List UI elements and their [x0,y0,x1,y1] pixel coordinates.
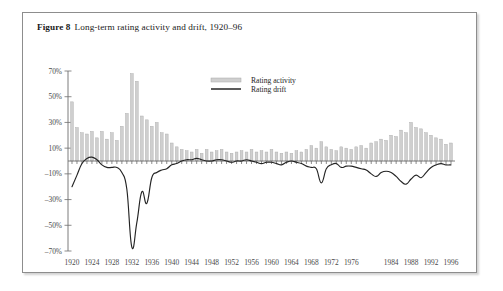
activity-bar [280,153,283,161]
activity-bar [405,133,408,161]
x-tick-label: 1948 [204,258,219,267]
activity-bar [265,152,268,161]
x-tick-label: 1944 [184,258,199,267]
activity-bar [385,140,388,161]
y-tick-label: –30% [44,195,62,204]
x-tick-label: 1956 [244,258,259,267]
activity-bar [295,151,298,161]
activity-bar [270,149,273,161]
x-tick-label: 1988 [404,258,419,267]
activity-bar [205,149,208,161]
activity-bar [325,147,328,161]
activity-bar [330,149,333,161]
activity-bar [400,130,403,161]
activity-bar [110,133,113,161]
y-tick-label: 50% [48,92,62,101]
activity-bar [315,148,318,161]
activity-bar [250,149,253,161]
activity-bar [305,149,308,161]
activity-bar [225,152,228,161]
activity-bar [96,138,99,161]
activity-bar [380,139,383,161]
activity-bar [290,153,293,161]
activity-bar [81,133,84,161]
legend-label-rating-drift: Rating drift [251,85,287,94]
activity-bar [425,133,428,161]
rating-drift-line [72,157,451,249]
x-tick-label: 1992 [424,258,439,267]
x-tick-label: 1924 [85,258,100,267]
x-tick-label: 1964 [284,258,299,267]
activity-bar [230,153,233,161]
x-tick-label: 1972 [324,258,339,267]
activity-bar [71,102,74,161]
activity-bar [340,147,343,161]
activity-bar [415,128,418,161]
activity-bar [140,116,143,161]
activity-bar [160,133,163,161]
x-tick-label: 1932 [124,258,139,267]
activity-bar [175,147,178,161]
activity-bar [235,152,238,161]
activity-bar [150,126,153,161]
activity-bar [130,74,133,161]
activity-bar [365,148,368,161]
y-tick-label: –70% [44,247,62,256]
activity-bar [360,146,363,161]
y-tick-label: –10% [44,169,62,178]
activity-bar [135,81,138,161]
x-tick-label: 1984 [384,258,399,267]
activity-bar [410,122,413,161]
activity-bar [310,146,313,161]
x-tick-label: 1940 [164,258,179,267]
x-tick-label: 1968 [304,258,319,267]
activity-bar [350,149,353,161]
drift-path [72,157,451,249]
activity-bar [210,152,213,161]
x-tick-label: 1960 [264,258,279,267]
activity-bar [420,129,423,161]
activity-bar [275,152,278,161]
activity-bar [430,135,433,161]
activity-bar [375,142,378,161]
y-tick-label: 10% [48,144,62,153]
activity-bar [440,139,443,161]
x-tick-label: 1996 [444,258,459,267]
figure-card: Figure 8Long-term rating activity and dr… [22,12,477,273]
activity-bar [390,135,393,161]
activity-bar [450,143,453,161]
activity-bar [145,120,148,161]
activity-bar [335,151,338,161]
y-tick-label: 30% [48,118,62,127]
activity-bar [101,131,104,161]
activity-bar [260,151,263,161]
y-axis: 70%50%30%10%–10%–30%–50%–70% [44,67,72,256]
legend-swatch-rating-activity [211,78,241,82]
activity-bar [86,134,89,161]
activity-bar [395,137,398,161]
activity-bar [300,152,303,161]
activity-bar [106,139,109,161]
activity-bar [170,143,173,161]
activity-bar [320,142,323,161]
y-tick-label: –50% [44,221,62,230]
activity-bar [355,147,358,161]
activity-bar [155,122,158,161]
x-tick-label: 1976 [344,258,359,267]
rating-activity-drift-chart: Rating activityRating drift 70%50%30%10%… [23,13,478,274]
x-axis-tick-labels: 1920192419281932193619401944194819521956… [65,258,459,267]
chart-legend: Rating activityRating drift [211,76,296,94]
activity-bar [345,148,348,161]
activity-bar [120,126,123,161]
activity-bar [445,144,448,161]
activity-bar [255,152,258,161]
activity-bar [115,140,118,161]
x-tick-label: 1928 [104,258,119,267]
x-tick-label: 1952 [224,258,239,267]
activity-bar [370,143,373,161]
x-tick-label: 1936 [144,258,159,267]
activity-bar [240,151,243,161]
legend-label-rating-activity: Rating activity [251,76,296,85]
activity-bar [285,152,288,161]
activity-bar [180,149,183,161]
